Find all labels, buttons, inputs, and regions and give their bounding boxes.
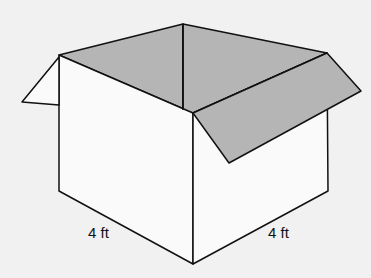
box-flap-left [22, 57, 59, 105]
right-edge-length-label: 4 ft [268, 224, 289, 241]
left-edge-length-label: 4 ft [88, 224, 109, 241]
box-diagram: 4 ft 4 ft [0, 0, 371, 278]
open-box-drawing [0, 0, 371, 278]
